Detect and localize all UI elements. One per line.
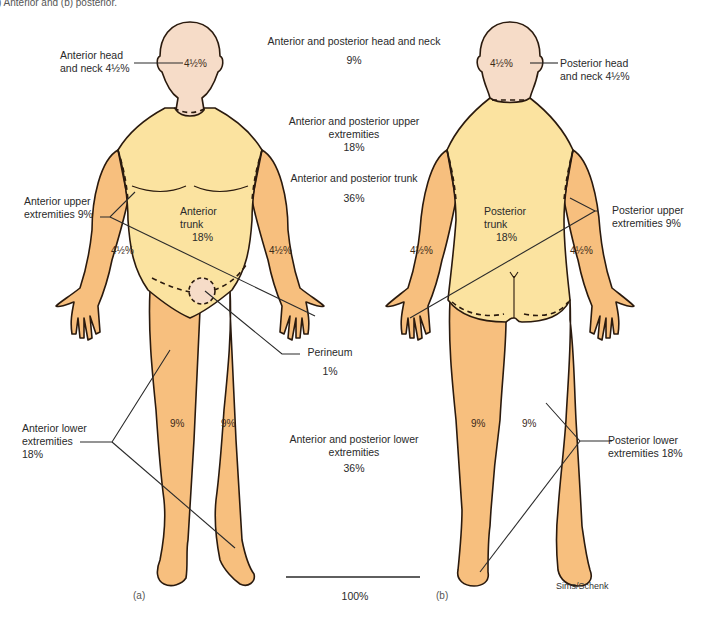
- posterior-figure: [386, 22, 634, 586]
- body-diagram: [0, 0, 709, 623]
- posterior-right-arm-value: 4½%: [570, 245, 593, 256]
- posterior-left-arm-value: 4½%: [410, 245, 433, 256]
- total-upper-extremities: Anterior and posterior upper extremities…: [270, 115, 438, 154]
- posterior-left-leg-value: 9%: [471, 418, 485, 429]
- anterior-right-leg: [215, 290, 254, 585]
- grand-total: 100%: [320, 590, 390, 603]
- anterior-head-neck-label: Anterior head and neck 4½%: [60, 49, 129, 75]
- anterior-left-arm-value: 4½%: [111, 245, 134, 256]
- perineum-label: Perineum 1%: [300, 346, 360, 378]
- total-lower-extremities: Anterior and posterior lower extremities…: [270, 433, 438, 475]
- posterior-right-leg: [557, 300, 592, 586]
- posterior-right-leg-value: 9%: [522, 418, 536, 429]
- anterior-upper-extremities-label: Anterior upper extremities 9%: [24, 195, 93, 221]
- total-trunk: Anterior and posterior trunk 36%: [270, 172, 438, 205]
- anterior-head: [157, 22, 223, 116]
- anterior-head-value: 4½%: [184, 58, 207, 69]
- posterior-lower-extremities-label: Posterior lower extremities 18%: [608, 434, 683, 460]
- anterior-figure: [56, 22, 324, 586]
- posterior-head-value: 4½%: [490, 58, 513, 69]
- posterior-trunk-label: Posterior trunk 18%: [484, 205, 526, 244]
- anterior-right-leg-value: 9%: [221, 418, 235, 429]
- panel-label-a: (a): [133, 590, 145, 601]
- anterior-trunk-label: Anterior trunk 18%: [180, 205, 224, 244]
- anterior-left-leg: [149, 290, 200, 586]
- posterior-left-leg: [449, 300, 506, 586]
- anterior-left-leg-value: 9%: [170, 418, 184, 429]
- posterior-upper-extremities-label: Posterior upper extremities 9%: [612, 204, 684, 230]
- illustration-credit: Sims/Schenk: [556, 581, 609, 591]
- anterior-lower-extremities-label: Anterior lower extremities 18%: [22, 422, 87, 461]
- panel-label-b: (b): [436, 590, 448, 601]
- anterior-right-arm-value: 4½%: [269, 245, 292, 256]
- posterior-head-neck-label: Posterior head and neck 4½%: [560, 57, 629, 83]
- anterior-perineum: [189, 278, 215, 304]
- total-head-neck: Anterior and posterior head and neck 9%: [250, 35, 458, 67]
